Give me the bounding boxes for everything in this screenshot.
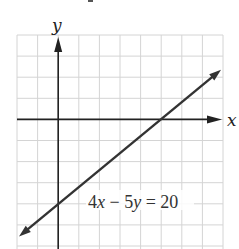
cropped-text-fragment xyxy=(88,0,93,2)
grid xyxy=(17,35,223,249)
coordinate-graph: y x 4x − 5y = 20 xyxy=(0,0,239,249)
y-axis-arrow-icon xyxy=(54,37,62,52)
equation-label: 4x − 5y = 20 xyxy=(86,190,194,212)
equation-text: 4x − 5y = 20 xyxy=(88,192,178,212)
x-axis-label: x xyxy=(227,110,237,130)
x-axis-arrow-icon xyxy=(207,115,222,123)
y-axis xyxy=(54,37,62,249)
y-axis-label: y xyxy=(51,15,62,35)
